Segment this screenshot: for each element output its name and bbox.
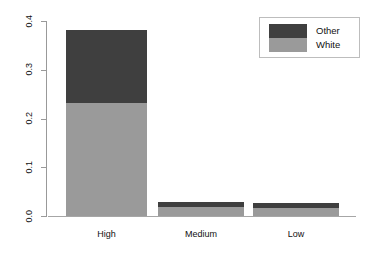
- bar-segment-white: [66, 103, 147, 216]
- legend-swatch-other: [269, 24, 307, 38]
- bar-low: [253, 203, 339, 216]
- y-tick-mark: [41, 70, 46, 71]
- legend-label-white: White: [316, 39, 340, 50]
- bar-medium: [158, 202, 244, 216]
- y-tick-label-text: 0.2: [24, 112, 34, 125]
- legend-swatch-white: [269, 38, 307, 52]
- y-tick-label-text: 0.0: [24, 210, 34, 223]
- y-tick-label: 0.4: [22, 8, 36, 34]
- y-tick-mark: [41, 21, 46, 22]
- bar-high: [66, 30, 147, 216]
- y-axis-line: [46, 21, 47, 217]
- y-tick-label-text: 0.1: [24, 161, 34, 174]
- legend: OtherWhite: [259, 17, 360, 58]
- y-tick-label-text: 0.4: [24, 15, 34, 28]
- x-tick-label-high: High: [67, 229, 147, 239]
- y-tick-mark: [41, 167, 46, 168]
- x-tick-label-low: Low: [256, 229, 336, 239]
- x-tick-label-medium: Medium: [161, 229, 241, 239]
- y-tick-label: 0.0: [22, 203, 36, 229]
- y-tick-label: 0.1: [22, 154, 36, 180]
- x-axis-line: [48, 216, 356, 217]
- legend-label-other: Other: [316, 25, 340, 36]
- stacked-bar-chart: 0.00.10.20.30.4 HighMediumLow OtherWhite: [0, 0, 371, 256]
- y-tick-label: 0.3: [22, 57, 36, 83]
- bar-segment-white: [253, 208, 339, 216]
- y-tick-label: 0.2: [22, 106, 36, 132]
- y-tick-mark: [41, 119, 46, 120]
- bar-segment-other: [66, 30, 147, 103]
- y-tick-label-text: 0.3: [24, 63, 34, 76]
- y-tick-mark: [41, 216, 46, 217]
- bar-segment-white: [158, 207, 244, 216]
